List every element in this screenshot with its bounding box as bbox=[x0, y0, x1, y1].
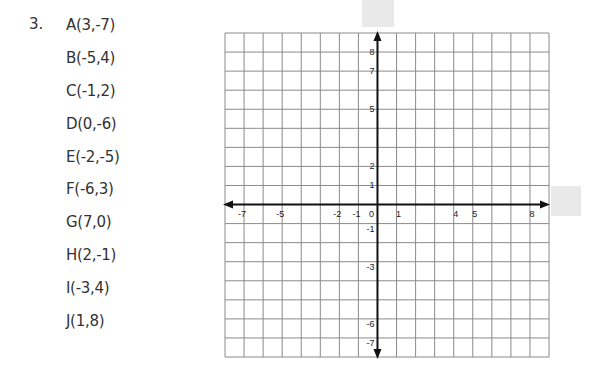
y-tick-label: 5 bbox=[369, 104, 374, 114]
y-tick-label: 1 bbox=[369, 180, 374, 190]
x-tick-label: 0 bbox=[369, 209, 374, 219]
y-tick-label: -1 bbox=[366, 224, 374, 234]
x-tick-label: 8 bbox=[529, 209, 534, 219]
y-tick-label: -7 bbox=[366, 338, 374, 348]
x-tick-label: -2 bbox=[333, 209, 341, 219]
y-tick-label: -3 bbox=[366, 262, 374, 272]
x-tick-label: 5 bbox=[472, 209, 477, 219]
coordinate-grid: -7-5-2-10145887521-1-3-6-7 bbox=[0, 0, 592, 369]
y-tick-label: -6 bbox=[366, 319, 374, 329]
x-tick-label: -5 bbox=[276, 209, 284, 219]
x-tick-label: -7 bbox=[238, 209, 246, 219]
x-tick-label: 4 bbox=[453, 209, 458, 219]
y-tick-label: 2 bbox=[369, 161, 374, 171]
y-tick-label: 7 bbox=[369, 66, 374, 76]
x-tick-label: -1 bbox=[352, 209, 360, 219]
x-tick-label: 1 bbox=[396, 209, 401, 219]
y-tick-label: 8 bbox=[369, 47, 374, 57]
